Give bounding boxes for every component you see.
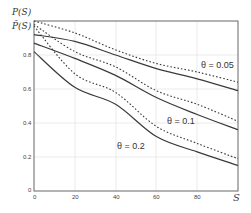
- curve-3: [34, 43, 238, 130]
- annotation-theta-0.05: θ = 0.05: [201, 60, 234, 70]
- annotation-theta-0.1: θ = 0.1: [167, 116, 195, 126]
- y-tick-0.2: 0.2: [23, 154, 31, 160]
- annotation-theta-0.2: θ = 0.2: [117, 141, 145, 151]
- y-tick-0: 0: [28, 187, 31, 193]
- y-tick-0.4: 0.4: [23, 120, 31, 126]
- x-tick-80: 80: [194, 194, 201, 200]
- x-tick-0: 0: [33, 194, 36, 200]
- x-tick-60: 60: [153, 194, 160, 200]
- y-tick-0.8: 0.8: [23, 52, 31, 58]
- x-axis-label: S: [233, 192, 240, 203]
- grid-lines: [34, 21, 238, 191]
- plot-frame: [34, 21, 238, 191]
- curve-0: [34, 21, 238, 82]
- y-axis-label-p: P(S): [12, 7, 31, 17]
- x-tick-20: 20: [72, 194, 79, 200]
- chart-canvas: [0, 0, 251, 213]
- y-axis-label-p-tilde: P̃(S): [12, 21, 31, 31]
- y-tick-0.6: 0.6: [23, 86, 31, 92]
- x-tick-40: 40: [113, 194, 120, 200]
